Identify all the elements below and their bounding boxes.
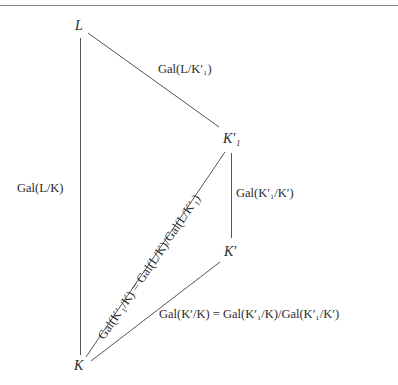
- edge-label-K-Kp: Gal(K′/K) = Gal(K′₁/K)/Gal(K′₁/K′): [159, 307, 339, 321]
- node-K1-prime: K′₁: [223, 132, 240, 146]
- node-K: K: [74, 359, 83, 373]
- edge-label-K1p-Kp: Gal(K′₁/K′): [236, 186, 294, 200]
- node-L: L: [75, 19, 83, 33]
- edge-L-K1p: [88, 33, 219, 127]
- edge-label-L-K: Gal(L/K): [17, 181, 64, 195]
- node-K-prime: K′: [224, 245, 236, 259]
- edge-label-L-K1p: Gal(L/K′₁): [158, 62, 212, 76]
